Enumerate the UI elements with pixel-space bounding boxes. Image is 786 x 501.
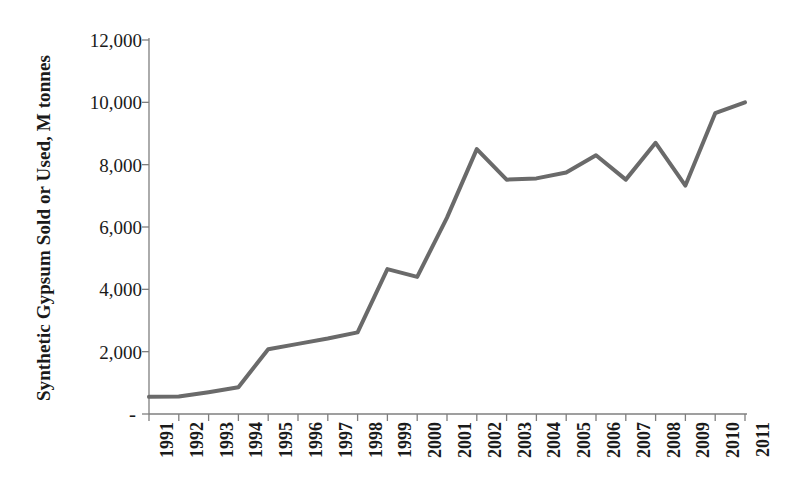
data-series-line xyxy=(149,102,745,397)
plot-area xyxy=(0,0,786,501)
line-chart: Synthetic Gypsum Sold or Used, M tonnes … xyxy=(0,0,786,501)
